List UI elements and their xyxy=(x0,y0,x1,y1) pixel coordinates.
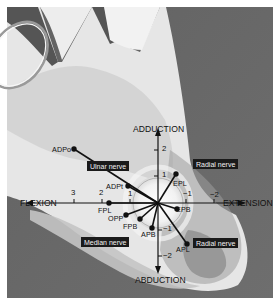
tick-flexion-2: 2 xyxy=(99,189,103,197)
nerve-label-ulnar: Ulnar nerve xyxy=(87,161,129,171)
muscle-label-opp: OPP xyxy=(108,215,123,222)
tick-flexion-1: 1 xyxy=(128,190,132,198)
tick-extension-2: −2 xyxy=(210,191,219,199)
abduction-label: ABDUCTION xyxy=(135,276,186,285)
tick-adduction-2: 2 xyxy=(162,145,166,153)
tick-abduction-1: −1 xyxy=(163,225,172,233)
muscle-label-adpt: ADPt xyxy=(106,183,123,190)
muscle-label-epl: EPL xyxy=(173,180,187,187)
nerve-label-radial-top: Radial nerve xyxy=(193,159,238,169)
tick-flexion-3: 3 xyxy=(71,189,75,197)
extension-label: EXTENSION xyxy=(223,199,273,208)
hand-moment-arm-diagram: ADDUCTION ABDUCTION FLEXION EXTENSION 3 … xyxy=(0,0,279,304)
tick-abduction-2: −2 xyxy=(163,252,172,260)
adduction-label: ADDUCTION xyxy=(133,125,184,134)
muscle-label-apb: APB xyxy=(141,231,156,238)
tick-extension-1: −1 xyxy=(183,190,192,198)
nerve-label-median: Median nerve xyxy=(81,237,129,247)
nerve-label-radial-bottom: Radial nerve xyxy=(193,238,238,248)
muscle-label-apl: APL xyxy=(176,246,190,253)
flexion-label: FLEXION xyxy=(20,199,57,208)
tick-adduction-1: 1 xyxy=(162,171,166,179)
muscle-label-epb: EPB xyxy=(176,206,191,213)
muscle-label-fpb: FPB xyxy=(123,223,137,230)
muscle-label-adpo: ADPo xyxy=(52,146,71,153)
hand-illustration xyxy=(0,0,279,304)
